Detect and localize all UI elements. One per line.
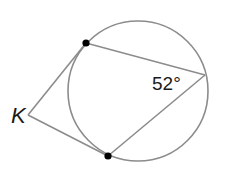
tangent-point-b — [104, 152, 111, 159]
tangent-segment-kb — [28, 115, 108, 156]
geometry-diagram: K 52° — [0, 0, 227, 177]
tangent-point-a — [82, 39, 89, 46]
chord-ac — [86, 43, 205, 75]
tangent-segment-ka — [28, 43, 86, 115]
angle-label: 52° — [152, 73, 181, 94]
vertex-label-k: K — [11, 103, 27, 128]
